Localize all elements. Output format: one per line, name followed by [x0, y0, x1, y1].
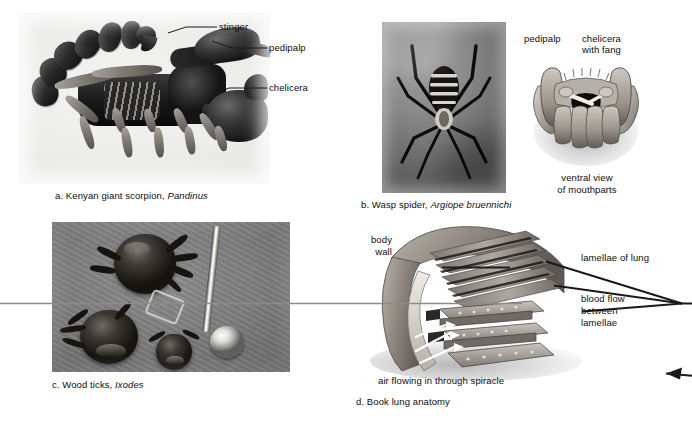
- arachnid-figure: stinger pedipalp chelicera a. Kenyan gia…: [0, 0, 692, 425]
- label-blood-flow-line1: blood flow: [581, 293, 625, 305]
- caption-c-species: Ixodes: [115, 379, 144, 390]
- caption-a-species: Pandinus: [167, 190, 207, 201]
- caption-b-species: Argiope bruennichi: [430, 199, 511, 210]
- panel-b-spider: pedipalp chelicera with fang ventral vie…: [346, 0, 692, 213]
- caption-b-prefix: b. Wasp spider,: [361, 199, 430, 210]
- mouthparts-drawing: [526, 58, 646, 170]
- label-pedipalp-scorpion: pedipalp: [269, 42, 306, 54]
- scorpion-photograph: [18, 12, 270, 184]
- caption-panel-c: c. Wood ticks, Ixodes: [52, 379, 144, 391]
- caption-panel-b: b. Wasp spider, Argiope bruennichi: [361, 199, 511, 211]
- spider-photograph: [382, 22, 506, 193]
- caption-a-prefix: a. Kenyan giant scorpion,: [55, 190, 167, 201]
- label-lamellae-of-lung: lamellae of lung: [581, 252, 649, 264]
- label-chelicera-line1: chelicera: [582, 33, 621, 45]
- label-stinger: stinger: [219, 21, 248, 33]
- label-blood-flow-line2: between: [581, 305, 618, 317]
- label-body-wall-line2: wall: [340, 246, 392, 258]
- label-chelicera-line2: with fang: [582, 44, 621, 56]
- subcaption-ventral-line2: of mouthparts: [532, 184, 642, 196]
- caption-panel-d: d. Book lung anatomy: [356, 396, 450, 408]
- label-pedipalp-mouthparts: pedipalp: [524, 33, 561, 45]
- book-lung-drawing: [356, 213, 596, 383]
- label-air-spiracle: air flowing in through spiracle: [378, 375, 504, 387]
- label-chelicera-scorpion: chelicera: [269, 82, 308, 94]
- caption-c-prefix: c. Wood ticks,: [52, 379, 115, 390]
- label-blood-flow-line3: lamellae: [581, 317, 617, 329]
- label-body-wall-line1: body: [340, 234, 392, 246]
- caption-panel-a: a. Kenyan giant scorpion, Pandinus: [55, 190, 208, 202]
- panel-a-scorpion: stinger pedipalp chelicera a. Kenyan gia…: [0, 0, 346, 213]
- ticks-photograph: [52, 222, 290, 372]
- panel-d-book-lung: body wall lamellae of lung blood flow be…: [346, 213, 692, 425]
- panel-c-ticks: c. Wood ticks, Ixodes: [0, 213, 346, 425]
- subcaption-ventral-line1: ventral view: [532, 172, 642, 184]
